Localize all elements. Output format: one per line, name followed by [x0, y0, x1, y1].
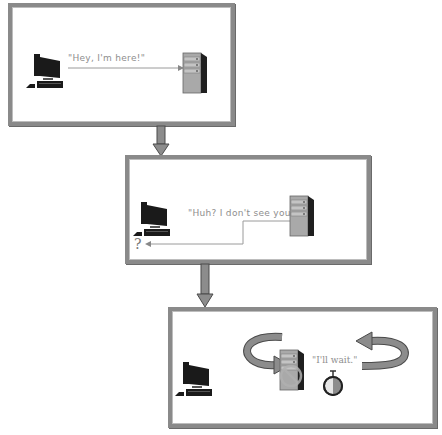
speech-text: "I'll wait.": [312, 355, 357, 365]
server-tower-icon: [289, 195, 317, 237]
panel-step-2: ? "Huh? I don't see you.": [125, 155, 371, 264]
speech-text: "Huh? I don't see you.": [188, 208, 298, 218]
panel-step-1: "Hey, I'm here!": [8, 3, 235, 126]
speech-text: "Hey, I'm here!": [68, 53, 145, 63]
down-arrow-connector: [196, 264, 214, 310]
message-arrow: [68, 64, 188, 72]
desktop-computer-icon: [25, 54, 65, 90]
reply-arrow: [143, 220, 303, 248]
server-tower-icon: [182, 52, 210, 94]
circular-arrow-right-icon: [352, 333, 412, 373]
panel-step-3: "I'll wait.": [168, 307, 437, 428]
stopwatch-icon: [322, 369, 344, 397]
down-arrow-connector: [152, 126, 170, 158]
desktop-computer-icon: [174, 362, 214, 398]
no-entry-icon: [278, 363, 304, 389]
question-mark: ?: [134, 237, 142, 251]
